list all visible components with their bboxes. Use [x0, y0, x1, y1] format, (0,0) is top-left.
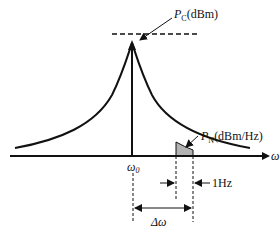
noise-density-label: PN(dBm/Hz)	[200, 129, 263, 145]
carrier-power-label: PC(dBm)	[173, 7, 218, 23]
axis-arrow-icon	[262, 152, 270, 160]
spectrum-diagram: PC(dBm) PN(dBm/Hz) ω ω0 1Hz Δω	[0, 0, 280, 232]
noise-band-shade	[176, 142, 193, 156]
axis-label: ω	[271, 149, 279, 163]
spectrum-curve-left	[15, 43, 132, 148]
center-frequency-label: ω0	[127, 160, 139, 175]
carrier-arrow-icon	[128, 40, 136, 50]
carrier-pointer-arrow	[140, 18, 172, 40]
offset-label: Δω	[150, 215, 167, 229]
bandwidth-label: 1Hz	[212, 176, 232, 190]
noise-pointer-arrow	[186, 136, 198, 147]
